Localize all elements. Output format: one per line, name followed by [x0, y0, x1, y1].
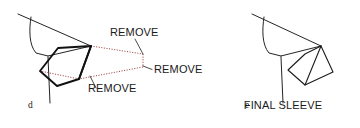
- final-sleeve-label: FINAL SLEEVE: [244, 99, 322, 111]
- panel-d-letter: d: [28, 100, 33, 110]
- remove-bottom-label: REMOVE: [88, 82, 137, 94]
- callout-group: REMOVE REMOVE REMOVE: [88, 26, 203, 94]
- pattern-diagram-svg: d REMOVE REMOVE REMOVE e FINAL SLEEVE: [0, 0, 360, 128]
- panel-d-remove-lower-dotted: [79, 67, 143, 79]
- remove-right-label: REMOVE: [154, 63, 203, 75]
- panel-e-body-underline: [281, 46, 321, 56]
- panel-d-shoulder-line: [18, 14, 91, 46]
- panel-e-sleeve-outline: [288, 46, 333, 85]
- figure-root: d REMOVE REMOVE REMOVE e FINAL SLEEVE: [0, 0, 360, 128]
- panel-e-side-seam: [281, 57, 283, 103]
- remove-top-label: REMOVE: [110, 26, 159, 38]
- panel-d-remove-upper-dotted: [91, 46, 143, 54]
- remove-right-leader: [143, 66, 152, 70]
- panel-e-group: e FINAL SLEEVE: [244, 14, 333, 111]
- remove-top-leader: [135, 39, 143, 54]
- panel-d-sleeve-inner-fold: [79, 46, 91, 79]
